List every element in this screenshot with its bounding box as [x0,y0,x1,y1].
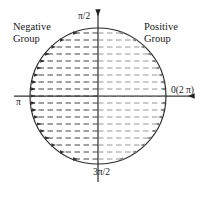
axis-label-zero-two-pi: 0(2 π) [171,85,194,96]
axis-label-three-pi-over-2: 3π/2 [93,167,110,178]
axis-label-pi-over-2: π/2 [78,11,90,22]
negative-group-label: Negative Group [13,21,51,45]
figure-root: Negative Group Positive Group π/2 π 0(2 … [0,0,206,198]
positive-group-label: Positive Group [144,21,178,45]
axis-label-pi: π [16,97,21,108]
